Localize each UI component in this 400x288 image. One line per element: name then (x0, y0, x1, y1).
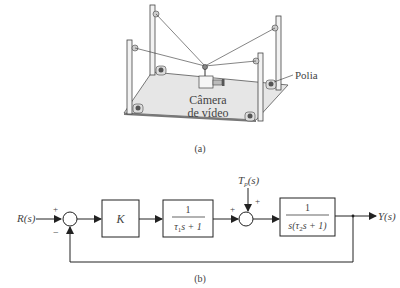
caption-a: (a) (194, 143, 205, 155)
sum1-minus-sign: − (53, 227, 59, 238)
camera-label-line2: de vídeo (188, 106, 229, 120)
figure-root: Câmera de vídeo Polia (a) R(s) + − K 1 τ… (0, 0, 400, 288)
pulley-base-back-left (156, 66, 166, 75)
pulley-label: Polia (295, 69, 318, 81)
camera-label-line1: Câmera (189, 93, 227, 107)
disturbance-label: Tp(s) (238, 174, 260, 188)
cable-hub (203, 65, 208, 70)
post-back-right (272, 16, 281, 90)
sum2-plus-left: + (230, 204, 235, 214)
caption-b: (b) (194, 273, 206, 285)
pulley-base-back-right (266, 80, 276, 89)
output-label: Y(s) (378, 210, 396, 223)
gain-label: K (115, 212, 125, 226)
summing-junction-1 (63, 212, 77, 226)
summing-junction-2 (239, 212, 253, 226)
cables (135, 14, 275, 66)
block-diagram: R(s) + − K 1 τ1s + 1 + + Tp(s) 1 s( (16, 174, 396, 285)
pulley-base-front-left (133, 104, 143, 113)
camera-rig-illustration: Câmera de vídeo Polia (a) (120, 5, 318, 155)
sum2-plus-top: + (255, 196, 260, 206)
pulley-base-front-right (245, 112, 255, 121)
input-label: R(s) (16, 212, 36, 225)
block1-numerator: 1 (186, 204, 191, 215)
sum1-plus-sign: + (53, 204, 58, 214)
block2-numerator: 1 (305, 202, 310, 213)
